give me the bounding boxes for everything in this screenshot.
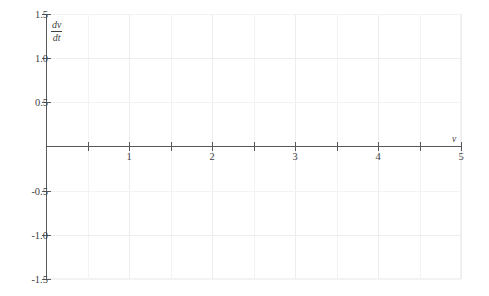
gridline-horizontal bbox=[46, 191, 461, 192]
gridline-horizontal bbox=[46, 279, 461, 280]
x-axis-label: v bbox=[452, 134, 456, 144]
x-axis-tick bbox=[254, 142, 255, 151]
gridline-horizontal bbox=[46, 102, 461, 103]
x-axis-tick-label: 4 bbox=[375, 151, 380, 162]
x-axis-tick-label: 1 bbox=[126, 151, 131, 162]
y-axis-tick-label: -1.0 bbox=[31, 229, 48, 240]
x-axis-tick bbox=[420, 142, 421, 151]
chart-figure: 123451.51.00.5-0.5-1.0-1.5 v dv dt bbox=[0, 0, 489, 296]
x-axis-tick bbox=[88, 142, 89, 151]
x-axis-tick bbox=[171, 142, 172, 151]
x-axis-tick bbox=[337, 142, 338, 151]
gridline-horizontal bbox=[46, 14, 461, 15]
x-axis-tick-label: 3 bbox=[292, 151, 297, 162]
y-axis-tick-label: 1.0 bbox=[35, 53, 48, 64]
x-axis-tick-label: 2 bbox=[209, 151, 214, 162]
derivative-fraction: dv dt bbox=[51, 20, 62, 43]
gridline-horizontal bbox=[46, 58, 461, 59]
x-axis-tick bbox=[378, 142, 379, 151]
x-axis-tick-label: 5 bbox=[458, 151, 463, 162]
y-axis-tick-label: 1.5 bbox=[35, 9, 48, 20]
y-axis-tick-label: 0.5 bbox=[35, 97, 48, 108]
x-axis-tick bbox=[129, 142, 130, 151]
x-axis-tick bbox=[295, 142, 296, 151]
y-axis-label: dv dt bbox=[51, 20, 62, 43]
x-axis-tick bbox=[461, 142, 462, 151]
fraction-numerator: dv bbox=[51, 20, 62, 31]
x-axis-tick bbox=[212, 142, 213, 151]
y-axis-tick-label: -0.5 bbox=[31, 185, 48, 196]
gridline-horizontal bbox=[46, 235, 461, 236]
fraction-denominator: dt bbox=[51, 33, 62, 44]
y-axis-tick-label: -1.5 bbox=[31, 274, 48, 285]
